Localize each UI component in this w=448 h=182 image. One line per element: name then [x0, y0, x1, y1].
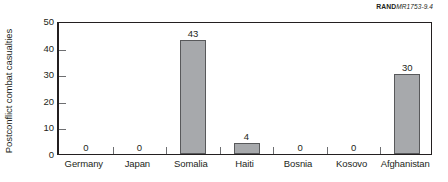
bar-value-label: 30	[402, 63, 413, 73]
y-axis-tick-label: 30	[43, 70, 54, 80]
x-axis-tick	[273, 147, 274, 154]
x-axis-tick	[327, 147, 328, 154]
y-axis-title: Postconflict combat casualties	[0, 0, 16, 182]
x-axis-label-haiti: Haiti	[235, 159, 254, 169]
y-axis-tick-10	[59, 129, 66, 130]
x-axis-label-germany: Germany	[65, 159, 103, 169]
y-axis-tick-20	[59, 103, 66, 104]
x-axis-label-somalia: Somalia	[174, 159, 208, 169]
y-axis-tick-label: 40	[43, 44, 54, 54]
source-credit: RANDMR1753-9.4	[376, 4, 433, 11]
x-axis-tick	[220, 147, 221, 154]
y-axis-tick-label: 50	[43, 17, 54, 27]
y-axis-tick-label: 0	[49, 150, 54, 160]
rand-brand-text: RAND	[376, 3, 396, 10]
plot-area: 004340030	[57, 22, 432, 155]
x-axis-label-bosnia: Bosnia	[284, 159, 312, 169]
bar-value-label: 4	[244, 132, 249, 142]
bar-value-label: 43	[188, 29, 199, 39]
y-axis-tick-40	[59, 50, 66, 51]
x-axis-tick	[113, 147, 114, 154]
x-axis-tick	[166, 147, 167, 154]
bar-value-label: 0	[297, 143, 302, 153]
y-axis-tick-30	[59, 76, 66, 77]
bar-value-label: 0	[351, 143, 356, 153]
x-axis-category-labels: GermanyJapanSomaliaHaitiBosniaKosovoAfgh…	[57, 159, 432, 175]
bar-afghanistan[interactable]	[394, 74, 420, 154]
bar-value-label: 0	[83, 143, 88, 153]
bar-somalia[interactable]	[180, 40, 206, 154]
x-axis-label-japan: Japan	[125, 159, 150, 169]
report-id-text: MR1753-9.4	[396, 3, 433, 10]
y-axis-tick-label: 10	[43, 124, 54, 134]
figure-container: RANDMR1753-9.4 Postconflict combat casua…	[0, 0, 448, 182]
bar-haiti[interactable]	[234, 143, 260, 154]
x-axis-tick	[380, 147, 381, 154]
bar-value-label: 0	[137, 143, 142, 153]
y-axis-tick-labels: 01020304050	[30, 22, 54, 155]
y-axis-tick-label: 20	[43, 97, 54, 107]
x-axis-label-afghanistan: Afghanistan	[381, 159, 430, 169]
x-axis-label-kosovo: Kosovo	[336, 159, 367, 169]
